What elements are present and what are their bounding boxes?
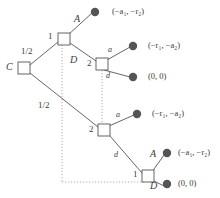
node-label-player1-top: 1: [48, 32, 53, 41]
action-label-upper-a: a: [108, 46, 112, 54]
action-label-top-A: A: [74, 14, 80, 24]
node-label-player2-lower: 2: [89, 125, 94, 134]
action-label-bottom-D: D: [150, 181, 157, 191]
terminal-node-upper-d: [129, 73, 137, 81]
node-label-player2-upper: 2: [87, 59, 92, 68]
edge-lower-a: [109, 115, 134, 126]
node-label-chance-root: C: [6, 62, 13, 72]
payoff-label-bottom-D: (0, 0): [178, 179, 196, 188]
probability-label-lower: 1/2: [38, 101, 50, 110]
payoff-label-top-A: (−a₁, −r₂): [112, 7, 144, 16]
terminal-node-top-A: [91, 8, 99, 16]
action-label-lower-a: a: [116, 111, 120, 119]
terminal-node-lower-a: [133, 110, 141, 118]
node-player2-lower: [98, 124, 110, 136]
game-tree-figure: C 1 2 2 1 1/2 1/2 A D a d a d A D (−a₁, …: [0, 0, 220, 198]
edge-chance-to-player1-top: [30, 42, 58, 65]
probability-label-upper: 1/2: [21, 47, 33, 56]
payoff-label-upper-a: (−r₁, −a₂): [148, 41, 180, 50]
node-player2-upper: [96, 58, 108, 70]
node-chance-root: [18, 62, 30, 74]
action-label-top-D: D: [70, 55, 77, 65]
terminal-node-bottom-D: [163, 180, 171, 188]
action-label-bottom-A: A: [150, 149, 156, 159]
node-player1-top: [58, 33, 70, 45]
payoff-label-bottom-A: (−a₁, −r₂): [178, 148, 210, 157]
node-label-player1-bottom: 1: [133, 170, 138, 179]
payoff-label-lower-a: (−r₁, −a₂): [152, 109, 184, 118]
terminal-node-upper-a: [129, 42, 137, 50]
payoff-label-upper-d: (0, 0): [148, 72, 166, 81]
action-label-lower-d: d: [114, 151, 118, 159]
terminal-node-bottom-A: [163, 149, 171, 157]
game-tree-graphics: [0, 0, 220, 198]
action-label-upper-d: d: [106, 72, 110, 80]
